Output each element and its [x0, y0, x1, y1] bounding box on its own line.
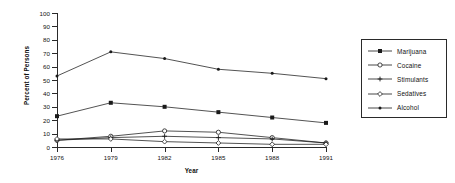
- data-point-plus: [270, 137, 275, 142]
- legend-label: Stimulants: [397, 76, 428, 83]
- y-tick: [52, 13, 58, 14]
- y-axis-title: Percent of Persons: [23, 37, 30, 115]
- data-point-plus: [378, 77, 383, 82]
- legend-label: Cocaine: [397, 62, 422, 69]
- legend-item-alcohol[interactable]: Alcohol: [362, 101, 448, 115]
- legend-label: Alcohol: [397, 104, 419, 111]
- x-tick-label: 1985: [204, 154, 232, 161]
- data-point-filled-square: [163, 105, 167, 109]
- legend-item-sedatives[interactable]: Sedatives: [362, 87, 448, 101]
- legend-label: Marijuana: [397, 48, 426, 55]
- y-tick-label: 70: [28, 50, 50, 57]
- series-line: [57, 136, 326, 143]
- x-tick-label: 1979: [97, 154, 125, 161]
- y-tick: [52, 120, 58, 121]
- legend-marker-open-diamond: [367, 87, 393, 101]
- x-tick: [326, 147, 327, 152]
- legend-item-cocaine[interactable]: Cocaine: [362, 58, 448, 72]
- y-tick-label: 40: [28, 90, 50, 97]
- data-point-plus: [162, 134, 167, 139]
- data-point-open-diamond: [378, 91, 383, 96]
- data-point-open-diamond: [162, 139, 167, 144]
- x-tick: [111, 147, 112, 152]
- x-tick-label: 1988: [258, 154, 286, 161]
- data-point-open-circle: [378, 63, 382, 67]
- y-tick: [52, 67, 58, 68]
- data-point-filled-dot: [109, 50, 112, 53]
- legend-marker-filled-dot: [367, 101, 393, 115]
- series-sedatives: [55, 137, 329, 147]
- data-point-open-circle: [109, 134, 113, 138]
- data-point-filled-square: [270, 116, 274, 120]
- data-point-filled-dot: [325, 77, 328, 80]
- data-point-filled-dot: [217, 68, 220, 71]
- series-line: [57, 52, 326, 79]
- x-tick-label: 1976: [43, 154, 71, 161]
- data-point-filled-square: [324, 121, 328, 125]
- data-point-open-diamond: [216, 141, 221, 146]
- y-tick-label: 20: [28, 117, 50, 124]
- legend-marker-plus: [367, 72, 393, 86]
- y-tick-label: 90: [28, 23, 50, 30]
- y-tick: [52, 107, 58, 108]
- x-tick: [218, 147, 219, 152]
- chart-legend: MarijuanaCocaineStimulantsSedativesAlcoh…: [361, 39, 447, 118]
- y-tick-label: 0: [28, 144, 50, 151]
- data-point-plus: [324, 141, 329, 146]
- y-tick: [52, 40, 58, 41]
- y-axis-title-wrap: Percent of Persons: [17, 42, 29, 122]
- legend-item-marijuana[interactable]: Marijuana: [362, 44, 448, 58]
- series-line: [57, 139, 326, 144]
- data-point-filled-dot: [379, 106, 382, 109]
- series-line: [57, 103, 326, 123]
- data-point-open-circle: [216, 130, 220, 134]
- data-point-open-circle: [163, 129, 167, 133]
- data-point-open-diamond: [270, 142, 275, 147]
- y-tick: [52, 26, 58, 27]
- y-tick: [52, 80, 58, 81]
- y-tick: [52, 93, 58, 94]
- series-marijuana: [55, 101, 328, 125]
- data-point-filled-dot: [163, 57, 166, 60]
- legend-item-stimulants[interactable]: Stimulants: [362, 72, 448, 86]
- y-tick-label: 80: [28, 36, 50, 43]
- y-tick: [52, 134, 58, 135]
- y-tick-label: 50: [28, 77, 50, 84]
- y-tick-label: 30: [28, 103, 50, 110]
- y-tick-label: 100: [28, 10, 50, 17]
- data-point-open-circle: [270, 136, 274, 140]
- data-point-plus: [216, 135, 221, 140]
- data-point-filled-square: [216, 110, 220, 114]
- data-point-open-diamond: [324, 142, 329, 147]
- series-alcohol: [56, 50, 328, 80]
- x-axis-title: Year: [57, 167, 326, 174]
- data-point-filled-dot: [271, 72, 274, 75]
- series-line: [57, 131, 326, 143]
- legend-marker-open-circle: [367, 58, 393, 72]
- legend-label: Sedatives: [397, 90, 426, 97]
- series-stimulants: [55, 134, 329, 146]
- data-point-plus: [108, 135, 113, 140]
- data-point-filled-square: [109, 101, 113, 105]
- data-point-filled-square: [378, 49, 382, 53]
- y-tick: [52, 53, 58, 54]
- y-tick-label: 10: [28, 130, 50, 137]
- chart-figure: 0102030405060708090100 19761979198219851…: [0, 0, 455, 183]
- data-point-open-circle: [324, 141, 328, 145]
- y-tick-label: 60: [28, 63, 50, 70]
- legend-marker-filled-square: [367, 44, 393, 58]
- x-tick-label: 1982: [151, 154, 179, 161]
- x-tick: [165, 147, 166, 152]
- x-tick: [272, 147, 273, 152]
- x-tick-label: 1991: [312, 154, 340, 161]
- x-tick: [57, 147, 58, 152]
- data-point-open-diamond: [108, 137, 113, 142]
- series-cocaine: [55, 129, 328, 145]
- x-axis-line: [57, 147, 326, 148]
